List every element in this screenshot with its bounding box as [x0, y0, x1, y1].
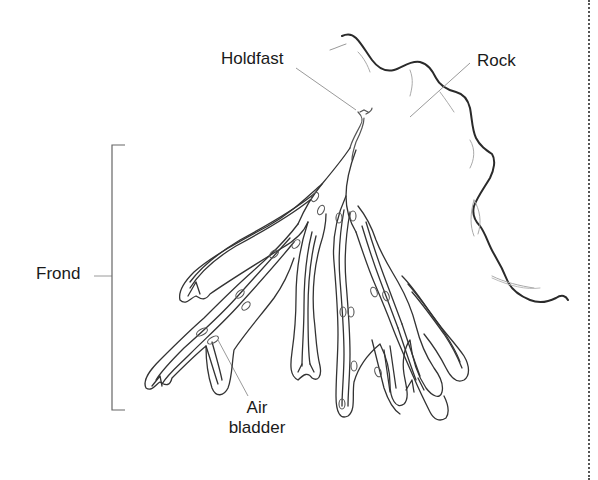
- rock-leader: [410, 63, 470, 117]
- label-holdfast: Holdfast: [221, 49, 283, 69]
- label-air-bladder: Air bladder: [222, 398, 292, 439]
- label-air-bladder-line1: Air: [222, 398, 292, 418]
- air-bladder: [373, 366, 382, 377]
- leader-lines: [94, 63, 470, 396]
- label-rock: Rock: [477, 51, 516, 71]
- air-bladder: [350, 211, 356, 221]
- label-air-bladder-line2: bladder: [222, 418, 292, 438]
- air-bladders: [195, 191, 390, 409]
- dotted-right-border: [588, 0, 590, 480]
- air-bladder: [290, 238, 301, 250]
- diagram-drawing: [0, 0, 598, 480]
- holdfast-leader: [296, 68, 356, 110]
- air-bladder-leader: [218, 340, 248, 396]
- holdfast: [350, 108, 372, 160]
- frond: [145, 148, 469, 420]
- seaweed-diagram: Holdfast Rock Frond Air bladder: [0, 0, 598, 480]
- air-bladder: [351, 361, 357, 371]
- air-bladder: [316, 204, 326, 216]
- frond-bracket: [112, 145, 125, 410]
- label-frond: Frond: [36, 264, 80, 284]
